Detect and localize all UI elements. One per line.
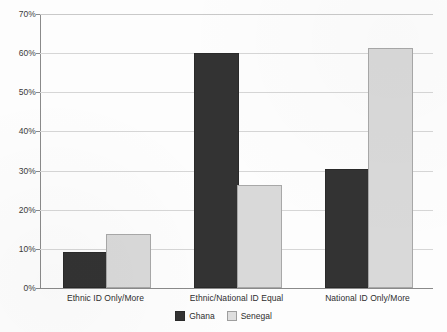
chart-legend: GhanaSenegal — [0, 311, 447, 321]
x-axis-category-label: National ID Only/More — [288, 293, 447, 303]
gridline — [40, 14, 433, 15]
plot-area — [40, 14, 433, 288]
gridline — [40, 288, 433, 289]
y-axis-tick — [36, 210, 40, 211]
bar-ghana-0 — [63, 252, 108, 288]
legend-label: Senegal — [241, 311, 272, 321]
legend-item-senegal: Senegal — [227, 311, 272, 321]
bar-chart: 70%60%50%40%30%20%10%0% Ethnic ID Only/M… — [0, 0, 447, 332]
bar-ghana-2 — [325, 169, 370, 288]
y-axis-tick-label: 30% — [2, 167, 36, 176]
legend-swatch-icon — [175, 311, 185, 321]
y-axis-tick-label: 20% — [2, 206, 36, 215]
legend-label: Ghana — [189, 311, 215, 321]
y-axis-tick — [36, 14, 40, 15]
bar-senegal-1 — [237, 185, 282, 288]
y-axis-tick — [36, 53, 40, 54]
bar-senegal-0 — [106, 234, 151, 288]
y-axis-tick — [36, 288, 40, 289]
legend-swatch-icon — [227, 311, 237, 321]
bar-ghana-1 — [194, 53, 239, 288]
y-axis-tick — [36, 92, 40, 93]
y-axis-tick-label: 10% — [2, 245, 36, 254]
bar-senegal-2 — [368, 48, 413, 288]
y-axis-tick-label: 70% — [2, 10, 36, 19]
y-axis-tick — [36, 249, 40, 250]
y-axis-tick — [36, 131, 40, 132]
y-axis-tick-label: 60% — [2, 49, 36, 58]
y-axis-tick — [36, 171, 40, 172]
legend-item-ghana: Ghana — [175, 311, 215, 321]
y-axis-tick-label: 0% — [2, 284, 36, 293]
y-axis-tick-label: 40% — [2, 127, 36, 136]
y-axis-labels: 70%60%50%40%30%20%10%0% — [0, 0, 36, 332]
y-axis-tick-label: 50% — [2, 88, 36, 97]
